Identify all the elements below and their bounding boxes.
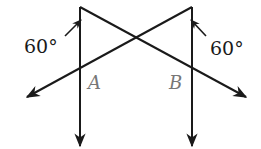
diagram: 60° 60° A B (0, 0, 261, 149)
angle-label-left: 60° (24, 37, 58, 56)
angle-pointer-left (65, 20, 81, 36)
line-figure (0, 0, 261, 149)
angle-pointer-right (191, 20, 206, 36)
point-label-a: A (88, 74, 101, 92)
angle-label-right: 60° (210, 39, 244, 58)
point-label-b: B (169, 74, 182, 92)
